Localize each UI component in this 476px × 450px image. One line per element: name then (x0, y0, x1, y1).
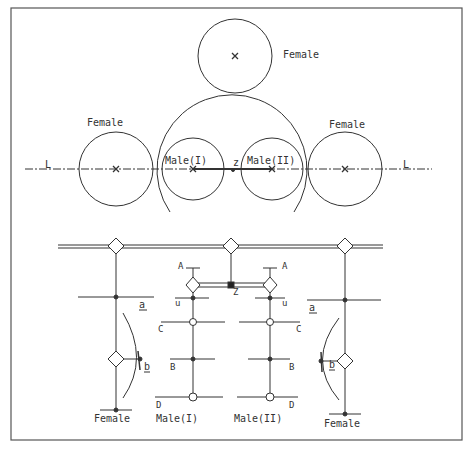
gear-arrangement-diagram: Female Female Female Male(I) Male(II) z … (0, 0, 476, 450)
label-female-right: Female (329, 119, 365, 130)
left-b-arc (123, 313, 137, 398)
diamond-right-b (337, 353, 353, 369)
label-a-left: a (139, 299, 145, 310)
label-male2: Male(II) (247, 155, 295, 166)
label-male1-bottom: Male(I) (156, 413, 198, 424)
label-male1: Male(I) (165, 155, 207, 166)
diamond-center-top (223, 238, 239, 254)
label-male2-bottom: Male(II) (234, 413, 282, 424)
label-Z: Z (233, 287, 239, 297)
diamond-left-top (108, 238, 124, 254)
label-l-left: L (45, 159, 51, 170)
top-view-labels: Female Female Female Male(I) Male(II) z … (45, 49, 409, 170)
diamond-left-b (108, 351, 124, 367)
label-l-right: L (403, 159, 409, 170)
label-A1: A (178, 261, 184, 271)
label-b-right: b (329, 359, 335, 370)
label-C1: C (158, 324, 163, 334)
label-B2: B (289, 362, 294, 372)
label-D1: D (156, 400, 161, 410)
diamond-male2 (263, 277, 277, 293)
label-D2: D (289, 400, 294, 410)
label-u1: u (175, 298, 180, 308)
frame-border (11, 8, 462, 440)
label-A2: A (282, 261, 288, 271)
label-u2: u (282, 298, 287, 308)
diamond-male1 (186, 277, 200, 293)
label-female-right-bottom: Female (324, 418, 360, 429)
label-female-left: Female (87, 117, 123, 128)
large-arc (157, 95, 307, 212)
bottom-view-labels: a b a b A A Z u u C C B B D D Female Mal… (94, 261, 360, 429)
label-female-left-bottom: Female (94, 413, 130, 424)
label-B1: B (170, 362, 175, 372)
diamond-right-top (337, 238, 353, 254)
center-marks (113, 53, 348, 172)
label-female-top: Female (283, 49, 319, 60)
label-C2: C (296, 324, 301, 334)
label-a-right: a (309, 302, 315, 313)
label-z: z (233, 157, 239, 168)
z-point (232, 169, 235, 172)
label-b-left: b (144, 361, 150, 372)
top-view (25, 19, 432, 212)
bottom-view (58, 238, 383, 416)
